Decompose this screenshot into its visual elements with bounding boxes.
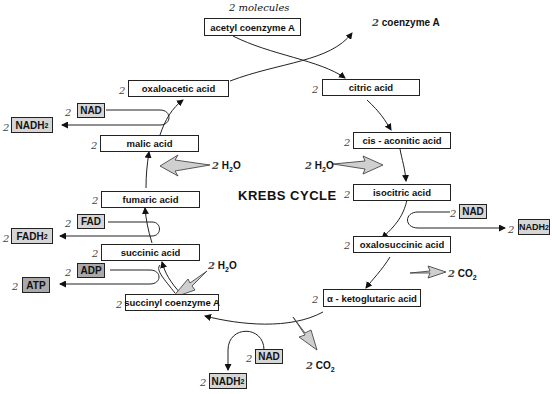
coef-malic: 2 — [91, 140, 97, 151]
h2o-arrow-malic — [160, 155, 210, 176]
h2o-label-succinyl: 2 H2O — [208, 260, 237, 273]
coef-nadh2-malic: 2 — [3, 122, 9, 133]
coef-fadh2: 2 — [3, 233, 9, 244]
coef-adp: 2 — [65, 267, 71, 278]
coef-citric: 2 — [312, 84, 318, 95]
coef-cis-aconitic: 2 — [344, 137, 350, 148]
h2o-label-malic: 2 H2O — [212, 160, 241, 173]
coef-nad-bottom: 2 — [246, 353, 252, 364]
nadh2-box-alpha: NADH2 — [209, 373, 247, 389]
adp-box: ADP — [77, 263, 105, 278]
box-isocitric-acid: isocitric acid — [353, 184, 451, 201]
coef-fumaric: 2 — [92, 195, 98, 206]
diagram-title: KREBS CYCLE — [238, 188, 337, 203]
nad-box-isocitric: NAD — [459, 204, 487, 219]
box-malic-acid: malic acid — [100, 135, 199, 152]
box-citric-acid: citric acid — [322, 79, 420, 96]
fadh2-box: FADH2 — [11, 228, 53, 244]
coef-oxaloacetic: 2 — [119, 85, 125, 96]
coef-fad: 2 — [65, 218, 71, 229]
fad-box: FAD — [77, 214, 105, 229]
box-fumaric-acid: fumaric acid — [101, 191, 200, 208]
coef-isocitric: 2 — [344, 189, 350, 200]
coef-alpha-ketoglutaric: 2 — [312, 294, 318, 305]
box-oxaloacetic-acid: oxaloacetic acid — [128, 80, 229, 97]
nad-box-malic: NAD — [77, 103, 105, 118]
nad-box-alpha: NAD — [255, 349, 283, 364]
input-count: 2 molecules — [229, 2, 289, 13]
coef-nad-malic: 2 — [65, 107, 71, 118]
output-coenzyme-a: 2 coenzyme A — [372, 17, 440, 28]
box-acetyl-coa: acetyl coenzyme A — [204, 18, 301, 36]
nadh2-box-isocitric: NADH2 — [518, 219, 550, 235]
coef-nadh2-isocitric: 2 — [508, 224, 514, 235]
box-cis-aconitic-acid: cis - aconitic acid — [353, 132, 451, 149]
coef-nadh2-bottom: 2 — [200, 377, 206, 388]
co2-arrow-oxalosuccinic — [410, 266, 446, 278]
box-succinic-acid: succinic acid — [101, 244, 200, 261]
nadh2-box-malic: NADH2 — [11, 117, 53, 133]
co2-arrow-alpha — [293, 317, 317, 350]
h2o-label-isocitric: 2 H2O — [305, 160, 334, 173]
box-alpha-ketoglutaric-acid: α - ketoglutaric acid — [323, 289, 421, 307]
h2o-arrow-isocitric — [333, 156, 383, 174]
coef-succinic: 2 — [92, 248, 98, 259]
coef-nad-isocitric: 2 — [450, 208, 456, 219]
box-succinyl-coenzyme-a: succinyl coenzyme A — [125, 294, 219, 311]
coef-succinyl-coa: 2 — [116, 299, 122, 310]
co2-label-oxalosuccinic: 2 CO2 — [448, 268, 477, 281]
atp-box: ATP — [22, 277, 50, 293]
co2-label-alpha: 2 CO2 — [306, 360, 335, 373]
coef-atp: 2 — [12, 281, 18, 292]
coef-oxalosuccinic: 2 — [344, 240, 350, 251]
box-oxalosuccinic-acid: oxalosuccinic acid — [353, 236, 451, 253]
